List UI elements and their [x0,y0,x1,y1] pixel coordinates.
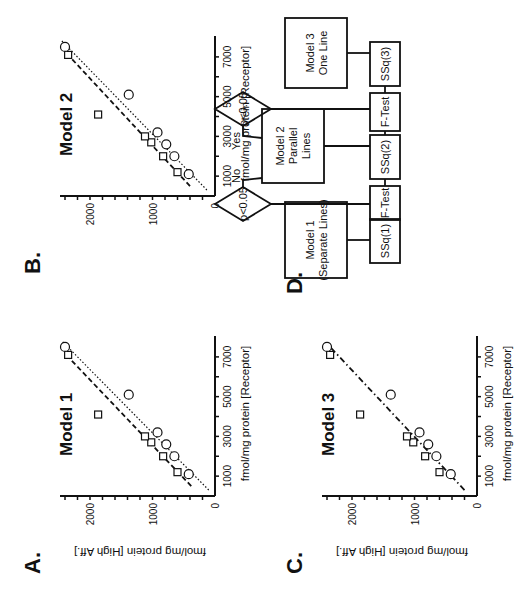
square-marker [160,153,167,160]
x-axis-label: fmol/mg protein [Receptor] [501,346,513,482]
fit-line [68,357,191,486]
panel-c-plot: C.Model 31000300050007000010002000fmol/m… [282,336,513,574]
circle-marker [424,440,433,449]
panel-a-plot: A.Model 11000300050007000010002000fmol/m… [20,336,251,574]
square-marker [65,51,72,58]
model-2-box-label: Lines [300,132,312,159]
panel-label: A. [20,552,45,574]
circle-marker [446,470,455,479]
model-2-box-label: Parallel [287,128,299,165]
square-marker [174,169,181,176]
square-marker [65,351,72,358]
panel-title: Model 2 [57,93,76,156]
x-tick-label: 3000 [222,425,233,448]
y-tick-label: 0 [472,503,483,509]
flowchart-labels: D.Model 1(Separate Lines)Model 2Parallel… [230,31,391,294]
y-tick-label: 2000 [85,203,96,226]
x-tick-label: 1000 [484,465,495,488]
model-1-box-label: (Separate Lines) [317,199,329,280]
no-label: No [230,169,242,183]
y-axis-label: fmol/mg protein [High Aff.] [336,546,468,558]
circle-marker [162,140,171,149]
fit-line [330,347,464,490]
model-3-box-label: One Line [317,31,329,76]
circle-marker [415,428,424,437]
x-tick-label: 5000 [484,385,495,408]
x-tick-label: 7000 [484,345,495,368]
circle-marker [170,152,179,161]
y-tick-label: 2000 [85,503,96,526]
decision2-label: p<0.05 [237,92,249,126]
fit-line [62,41,207,190]
panel-b-plot: B.Model 21000300050007000010002000fmol/m… [20,36,251,274]
circle-marker [124,90,133,99]
y-axis-label: fmol/mg protein [High Aff.] [74,546,206,558]
x-tick-label: 7000 [222,45,233,68]
panel-title: Model 1 [57,393,76,456]
x-tick-label: 1000 [222,465,233,488]
yes-label: Yes [230,132,242,150]
y-tick-label: 2000 [347,503,358,526]
x-axis-label: fmol/mg protein [Receptor] [239,346,251,482]
model-3-box-label: Model 3 [304,33,316,72]
rotated-figure: A.Model 11000300050007000010002000fmol/m… [0,0,520,596]
panel-title: Model 3 [319,393,338,456]
panel-label: B. [20,252,45,274]
ssq2-label: SSq(2) [379,140,391,174]
square-marker [142,133,149,140]
y-tick-label: 1000 [148,503,159,526]
y-tick-label: 0 [210,503,221,509]
fit-line [62,341,209,490]
x-tick-label: 5000 [222,385,233,408]
circle-marker [170,452,179,461]
circle-marker [124,390,133,399]
square-marker [422,453,429,460]
circle-marker [153,128,162,137]
circle-marker [162,440,171,449]
ftest1-label: F-Test [379,188,391,219]
square-marker [142,433,149,440]
square-marker [174,469,181,476]
x-tick-label: 3000 [484,425,495,448]
square-marker [95,111,102,118]
model-1-box-label: Model 1 [304,220,316,259]
circle-marker [432,452,441,461]
y-tick-label: 1000 [410,503,421,526]
circle-marker [323,342,332,351]
circle-marker [184,470,193,479]
figure-canvas: A.Model 11000300050007000010002000fmol/m… [0,0,520,596]
panel-label: C. [282,552,307,574]
circle-marker [184,170,193,179]
ssq3-label: SSq(3) [379,47,391,81]
y-tick-label: 1000 [148,203,159,226]
decision1-label: p<0.05 [237,187,249,221]
square-marker [357,411,364,418]
square-marker [327,351,334,358]
circle-marker [61,42,70,51]
circle-marker [386,390,395,399]
square-marker [404,433,411,440]
square-marker [95,411,102,418]
circle-marker [153,428,162,437]
panel-label: D. [282,272,307,294]
ftest2-label: F-Test [379,97,391,128]
ssq1-label: SSq(1) [379,224,391,258]
square-marker [436,469,443,476]
model-2-box-label: Model 2 [274,126,286,165]
fit-line [68,55,190,186]
circle-marker [61,342,70,351]
x-tick-label: 7000 [222,345,233,368]
square-marker [160,453,167,460]
